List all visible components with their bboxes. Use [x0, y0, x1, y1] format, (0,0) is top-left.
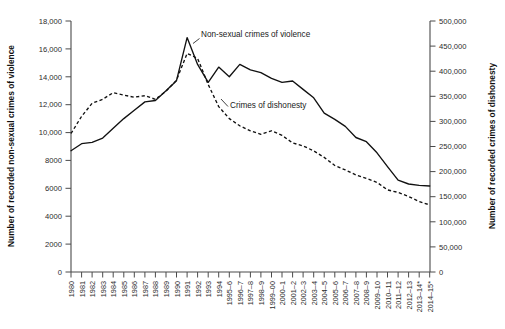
right-tick-label-450000: 450,000	[439, 42, 466, 51]
x-axis-tick-labels: 1980 1981 1982 1983 1984 1985 1986 1987 …	[67, 281, 435, 312]
x-tick-label-2009-10: 2009–10	[373, 281, 382, 309]
crime-statistics-line-chart: 0 2000 4000 6000 8000 10,000 12,000 14,0…	[0, 0, 505, 329]
right-tick-label-200000: 200,000	[439, 167, 466, 176]
right-axis-ticks	[430, 21, 436, 272]
x-tick-label-1980: 1980	[67, 281, 76, 297]
right-tick-label-300000: 300,000	[439, 117, 466, 126]
x-tick-label-1984: 1984	[109, 281, 118, 297]
x-tick-label-2003-4: 2003–4	[310, 281, 319, 305]
x-tick-label-1994: 1994	[215, 281, 224, 297]
x-axis-ticks	[71, 272, 430, 278]
right-tick-label-400000: 400,000	[439, 67, 466, 76]
x-tick-label-1996-7: 1996–7	[236, 281, 245, 305]
left-tick-label-18000: 18,000	[39, 17, 62, 26]
x-tick-label-1998-9: 1998–9	[257, 281, 266, 305]
x-tick-label-2001-2: 2001–2	[289, 281, 298, 305]
x-tick-label-1981: 1981	[78, 281, 87, 297]
x-tick-label-1987: 1987	[141, 281, 150, 297]
left-tick-label-10000: 10,000	[39, 128, 62, 137]
x-tick-label-1991: 1991	[183, 281, 192, 297]
x-tick-label-1990: 1990	[173, 281, 182, 297]
right-tick-label-50000: 50,000	[439, 243, 462, 252]
left-axis-ticks	[66, 21, 72, 272]
x-tick-label-2005-6: 2005–6	[331, 281, 340, 305]
plot-area	[71, 38, 430, 205]
right-axis-tick-labels: 0 50,000 100,000 150,000 200,000 250,000…	[439, 17, 466, 277]
x-tick-label-1982: 1982	[88, 281, 97, 297]
x-tick-label-2010-11: 2010–11	[384, 281, 393, 309]
right-tick-label-350000: 350,000	[439, 92, 466, 101]
left-tick-label-12000: 12,000	[39, 100, 62, 109]
left-axis-title: Number of recorded non-sexual crimes of …	[6, 45, 16, 247]
left-tick-label-14000: 14,000	[39, 73, 62, 82]
violence-label-leader	[193, 39, 200, 44]
violence-series-label: Non-sexual crimes of violence	[201, 30, 311, 39]
x-tick-label-2008-9: 2008–9	[362, 281, 371, 305]
right-tick-label-150000: 150,000	[439, 192, 466, 201]
x-tick-label-2007-8: 2007–8	[352, 281, 361, 305]
left-axis: 0 2000 4000 6000 8000 10,000 12,000 14,0…	[6, 17, 71, 277]
dishonesty-label-leader	[221, 99, 228, 107]
left-tick-label-2000: 2000	[45, 240, 62, 249]
x-tick-label-1992: 1992	[194, 281, 203, 297]
x-axis: 1980 1981 1982 1983 1984 1985 1986 1987 …	[67, 272, 435, 312]
x-tick-label-2014-15: 2014–15*	[426, 281, 435, 312]
dishonesty-series-label: Crimes of dishonesty	[230, 101, 307, 110]
right-tick-label-250000: 250,000	[439, 142, 466, 151]
x-tick-label-2011-12: 2011–12	[394, 281, 403, 309]
series-line-crimes-of-dishonesty	[71, 53, 430, 205]
x-tick-label-2000-1: 2000–1	[278, 281, 287, 305]
x-tick-label-1989: 1989	[162, 281, 171, 297]
x-tick-label-1999-00: 1999–00	[268, 281, 277, 309]
right-tick-label-100000: 100,000	[439, 218, 466, 227]
right-tick-label-0: 0	[439, 268, 443, 277]
left-tick-label-0: 0	[58, 268, 62, 277]
x-tick-label-1985: 1985	[120, 281, 129, 297]
x-tick-label-1997-8: 1997–8	[246, 281, 255, 305]
left-tick-label-8000: 8000	[45, 156, 62, 165]
x-tick-label-2012-13: 2012–13	[405, 281, 414, 309]
x-tick-label-2013-14: 2013–14*	[415, 281, 424, 312]
x-tick-label-1995-6: 1995–6	[225, 281, 234, 305]
right-axis-title: Number of recorded crimes of dishonesty	[487, 63, 497, 229]
x-tick-label-1988: 1988	[151, 281, 160, 297]
series-line-non-sexual-crimes-of-violence	[71, 38, 430, 186]
left-tick-label-4000: 4000	[45, 212, 62, 221]
right-axis: 0 50,000 100,000 150,000 200,000 250,000…	[430, 17, 497, 277]
left-tick-label-16000: 16,000	[39, 45, 62, 54]
x-tick-label-2004-5: 2004–5	[320, 281, 329, 305]
x-tick-label-1983: 1983	[99, 281, 108, 297]
right-tick-label-500000: 500,000	[439, 17, 466, 26]
left-tick-label-6000: 6000	[45, 184, 62, 193]
left-axis-tick-labels: 0 2000 4000 6000 8000 10,000 12,000 14,0…	[39, 17, 62, 277]
x-tick-label-2002-3: 2002–3	[299, 281, 308, 305]
chart-canvas: 0 2000 4000 6000 8000 10,000 12,000 14,0…	[0, 0, 505, 329]
x-tick-label-1993: 1993	[204, 281, 213, 297]
x-tick-label-2006-7: 2006–7	[341, 281, 350, 305]
x-tick-label-1986: 1986	[130, 281, 139, 297]
